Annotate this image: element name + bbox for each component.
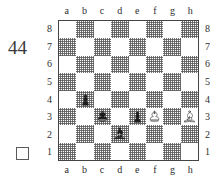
black-pawn-icon[interactable] [129,108,146,125]
file-label-d: d [111,4,129,18]
square-d2[interactable] [111,125,128,142]
square-c1[interactable] [94,143,111,160]
black-king-icon[interactable] [94,108,111,125]
square-b1[interactable] [76,143,93,160]
chessboard [58,20,199,161]
square-e8[interactable] [129,21,146,38]
rank-label-1: 1 [43,143,56,161]
square-e5[interactable] [129,73,146,90]
rank-label-4: 4 [43,91,56,109]
square-c7[interactable] [94,38,111,55]
square-e1[interactable] [129,143,146,160]
square-b4[interactable] [76,91,93,108]
square-c2[interactable] [94,125,111,142]
square-a6[interactable] [59,56,76,73]
square-g5[interactable] [163,73,180,90]
file-label-a: a [58,163,76,177]
square-f1[interactable] [146,143,163,160]
white-king-icon[interactable] [146,108,163,125]
square-b2[interactable] [76,125,93,142]
square-a2[interactable] [59,125,76,142]
square-h3[interactable] [181,108,198,125]
square-e6[interactable] [129,56,146,73]
rank-label-5: 5 [201,73,214,91]
square-b6[interactable] [76,56,93,73]
square-g4[interactable] [163,91,180,108]
square-f8[interactable] [146,21,163,38]
square-g6[interactable] [163,56,180,73]
file-label-c: c [93,4,111,18]
file-label-g: g [164,163,182,177]
black-pawn-icon[interactable] [76,91,93,108]
square-a5[interactable] [59,73,76,90]
file-label-g: g [164,4,182,18]
rank-label-6: 6 [43,55,56,73]
square-h6[interactable] [181,56,198,73]
chess-puzzle-diagram: 44 a b c d e f g h a b c d e f g h 8 7 6… [0,0,215,189]
square-a7[interactable] [59,38,76,55]
rank-label-3: 3 [201,108,214,126]
square-g3[interactable] [163,108,180,125]
square-c3[interactable] [94,108,111,125]
rank-label-7: 7 [201,38,214,56]
square-g1[interactable] [163,143,180,160]
chessboard-grid [58,20,199,161]
square-a4[interactable] [59,91,76,108]
file-label-b: b [76,163,94,177]
square-h1[interactable] [181,143,198,160]
rank-label-2: 2 [201,126,214,144]
square-d5[interactable] [111,73,128,90]
square-c8[interactable] [94,21,111,38]
square-c5[interactable] [94,73,111,90]
square-f7[interactable] [146,38,163,55]
square-c6[interactable] [94,56,111,73]
square-d1[interactable] [111,143,128,160]
square-a3[interactable] [59,108,76,125]
rank-label-8: 8 [43,20,56,38]
square-c4[interactable] [94,91,111,108]
square-h2[interactable] [181,125,198,142]
square-f2[interactable] [146,125,163,142]
square-h5[interactable] [181,73,198,90]
square-g7[interactable] [163,38,180,55]
square-h8[interactable] [181,21,198,38]
square-f6[interactable] [146,56,163,73]
square-f5[interactable] [146,73,163,90]
square-h4[interactable] [181,91,198,108]
square-b3[interactable] [76,108,93,125]
square-b5[interactable] [76,73,93,90]
square-d4[interactable] [111,91,128,108]
square-h7[interactable] [181,38,198,55]
square-e2[interactable] [129,125,146,142]
square-d7[interactable] [111,38,128,55]
square-e3[interactable] [129,108,146,125]
rank-label-5: 5 [43,73,56,91]
side-to-move-indicator [16,147,29,160]
rank-label-2: 2 [43,126,56,144]
file-label-f: f [146,4,164,18]
rank-label-8: 8 [201,20,214,38]
white-bishop-icon[interactable] [181,108,198,125]
file-labels-bottom: a b c d e f g h [58,163,199,177]
file-label-b: b [76,4,94,18]
square-g8[interactable] [163,21,180,38]
rank-label-3: 3 [43,108,56,126]
rank-label-4: 4 [201,91,214,109]
square-g2[interactable] [163,125,180,142]
file-label-d: d [111,163,129,177]
file-label-h: h [181,163,199,177]
square-f3[interactable] [146,108,163,125]
square-f4[interactable] [146,91,163,108]
square-d8[interactable] [111,21,128,38]
square-b8[interactable] [76,21,93,38]
square-d6[interactable] [111,56,128,73]
square-a1[interactable] [59,143,76,160]
square-e7[interactable] [129,38,146,55]
square-b7[interactable] [76,38,93,55]
square-a8[interactable] [59,21,76,38]
black-bishop-icon[interactable] [111,125,128,142]
file-label-c: c [93,163,111,177]
square-d3[interactable] [111,108,128,125]
square-e4[interactable] [129,91,146,108]
rank-label-6: 6 [201,55,214,73]
